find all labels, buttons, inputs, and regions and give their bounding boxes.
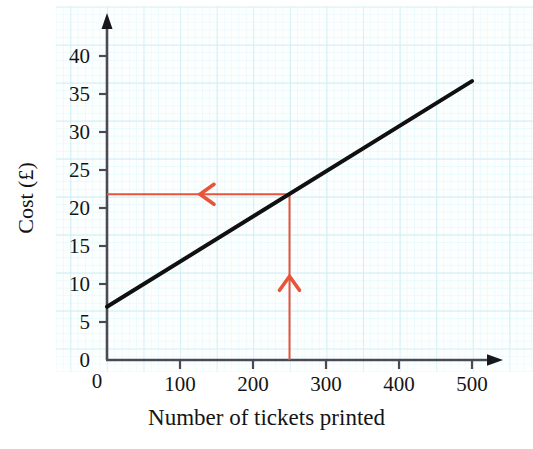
ytick-label-20: 20 (40, 198, 90, 219)
xtick-label-100: 100 (164, 374, 196, 395)
xtick-label-400: 400 (383, 374, 415, 395)
x-tick-marks (180, 360, 472, 369)
annotation-reading-vertical (280, 194, 300, 360)
x-axis-title: Number of tickets printed (0, 405, 533, 431)
chart-figure: 0 5 10 15 20 25 30 35 40 0 100 200 300 4… (0, 0, 533, 449)
xtick-label-500: 500 (456, 374, 488, 395)
ytick-label-25: 25 (40, 160, 90, 181)
y-axis-title: Cost (£) (13, 128, 39, 268)
xtick-label-200: 200 (237, 374, 269, 395)
ytick-label-15: 15 (40, 236, 90, 257)
xtick-label-300: 300 (310, 374, 342, 395)
annotation-reading-horizontal (107, 184, 290, 204)
x-axis (106, 354, 503, 366)
ytick-label-35: 35 (40, 84, 90, 105)
ytick-label-30: 30 (40, 122, 90, 143)
ytick-label-40: 40 (40, 46, 90, 67)
ytick-label-0: 0 (40, 350, 90, 371)
ytick-label-5: 5 (40, 312, 90, 333)
xtick-label-0: 0 (92, 371, 103, 392)
ytick-label-10: 10 (40, 274, 90, 295)
